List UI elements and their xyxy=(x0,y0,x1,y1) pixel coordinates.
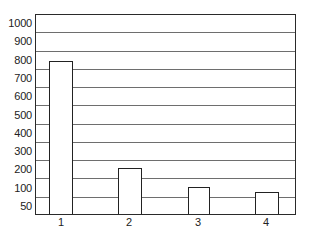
gridline xyxy=(36,124,295,125)
y-tick-label: 200 xyxy=(14,163,32,175)
y-tick-label: 300 xyxy=(14,145,32,157)
bar-chart: 100090080070060050040030020010050 1234 xyxy=(0,0,315,249)
y-tick-label: 800 xyxy=(14,54,32,66)
gridline xyxy=(36,51,295,52)
gridline xyxy=(36,87,295,88)
gridline xyxy=(36,105,295,106)
y-tick-label: 600 xyxy=(14,90,32,102)
y-tick-label: 500 xyxy=(14,109,32,121)
y-tick-label: 50 xyxy=(20,200,32,212)
y-tick-label: 700 xyxy=(14,72,32,84)
y-tick-label: 400 xyxy=(14,127,32,139)
bar-3 xyxy=(188,187,210,215)
x-tick-label: 2 xyxy=(119,216,139,228)
y-tick-label: 1000 xyxy=(8,17,32,29)
gridline xyxy=(36,69,295,70)
gridline xyxy=(36,160,295,161)
gridline xyxy=(36,178,295,179)
y-tick-label: 100 xyxy=(14,182,32,194)
y-tick-label: 900 xyxy=(14,35,32,47)
x-tick-label: 1 xyxy=(51,216,71,228)
x-tick-label: 4 xyxy=(256,216,276,228)
gridline xyxy=(36,142,295,143)
gridline xyxy=(36,32,295,33)
x-tick-label: 3 xyxy=(188,216,208,228)
bar-4 xyxy=(255,192,279,214)
bar-2 xyxy=(118,168,142,214)
plot-area xyxy=(35,14,296,215)
bar-1 xyxy=(49,61,73,215)
